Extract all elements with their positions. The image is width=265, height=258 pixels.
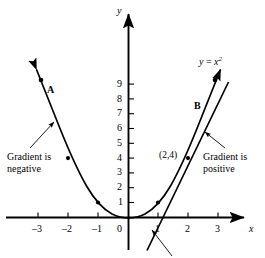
leader-gradient-positive bbox=[205, 132, 225, 148]
gradient-negative-line2: negative bbox=[7, 163, 51, 175]
y-axis-label: y bbox=[117, 5, 121, 16]
y-tick-label-1: 1 bbox=[118, 196, 123, 207]
gradient-positive-annotation: Gradient is positive bbox=[203, 151, 247, 174]
equation-exponent: 2 bbox=[219, 55, 223, 63]
y-tick-label-4: 4 bbox=[117, 152, 122, 163]
point-b-label: B bbox=[194, 100, 201, 111]
y-tick-label-5: 5 bbox=[117, 137, 122, 148]
parabola-right-branch bbox=[129, 70, 221, 219]
x-tick-label-3: 3 bbox=[215, 223, 220, 234]
x-tick-label--1: –1 bbox=[92, 223, 102, 234]
gradient-negative-annotation: Gradient is negative bbox=[7, 151, 51, 174]
x-tick-label-1: 1 bbox=[155, 223, 160, 234]
y-tick-label-7: 7 bbox=[117, 107, 122, 118]
gradient-negative-line1: Gradient is bbox=[7, 151, 51, 163]
marker-point bbox=[66, 156, 70, 160]
marker-point bbox=[96, 200, 100, 204]
x-tick-label--2: –2 bbox=[62, 223, 72, 234]
y-tick-label-8: 8 bbox=[117, 93, 122, 104]
graph-figure: –3 –2 –1 0 1 2 3 1 2 3 4 5 6 7 8 9 x y A… bbox=[0, 0, 265, 258]
gradient-positive-line2: positive bbox=[203, 163, 247, 175]
graph-canvas bbox=[0, 0, 265, 258]
y-tick-label-9: 9 bbox=[117, 78, 122, 89]
curve-equation-label: y = x2 bbox=[199, 54, 222, 67]
x-tick-label--3: –3 bbox=[32, 223, 42, 234]
y-tick-label-3: 3 bbox=[117, 166, 122, 177]
marker-point-a bbox=[39, 78, 44, 83]
x-tick-label-2: 2 bbox=[185, 223, 190, 234]
marker-point-b bbox=[213, 78, 218, 83]
marker-point bbox=[156, 200, 160, 204]
point-a-label: A bbox=[47, 84, 54, 95]
y-tick-label-6: 6 bbox=[117, 122, 122, 133]
equation-equals: = bbox=[206, 56, 212, 67]
x-tick-label-0: 0 bbox=[117, 223, 122, 234]
marker-point bbox=[186, 156, 190, 160]
coordinate-label: (2,4) bbox=[159, 150, 177, 161]
gradient-positive-line1: Gradient is bbox=[203, 151, 247, 163]
y-tick-label-2: 2 bbox=[117, 181, 122, 192]
x-axis-label: x bbox=[249, 223, 253, 234]
leader-gradient-negative bbox=[30, 122, 54, 148]
